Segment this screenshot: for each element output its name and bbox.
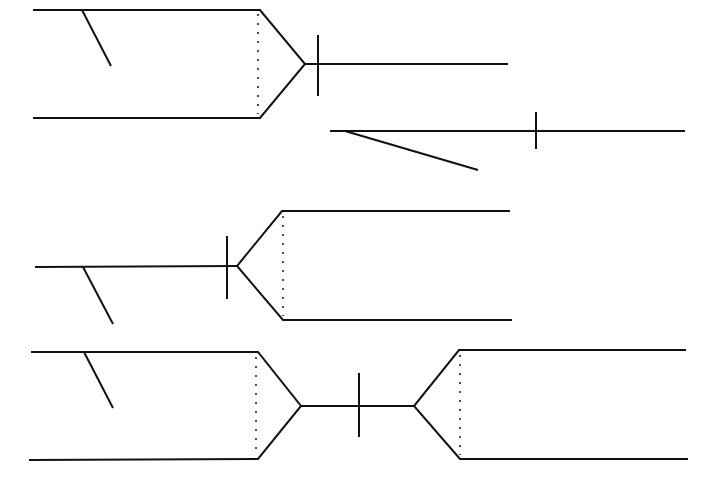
figure-double-split xyxy=(29,350,688,460)
solid-line xyxy=(237,211,512,320)
solid-line xyxy=(33,10,305,118)
solid-line xyxy=(82,10,111,66)
solid-line xyxy=(414,350,688,459)
solid-line xyxy=(84,352,113,408)
solid-line xyxy=(35,266,237,267)
figure-line-with-branch xyxy=(330,112,685,170)
figure-split-left xyxy=(35,211,512,324)
solid-line xyxy=(345,131,478,170)
figure-split-right xyxy=(33,10,508,118)
solid-line xyxy=(29,352,301,460)
solid-line xyxy=(83,267,113,324)
line-diagram xyxy=(0,0,706,478)
